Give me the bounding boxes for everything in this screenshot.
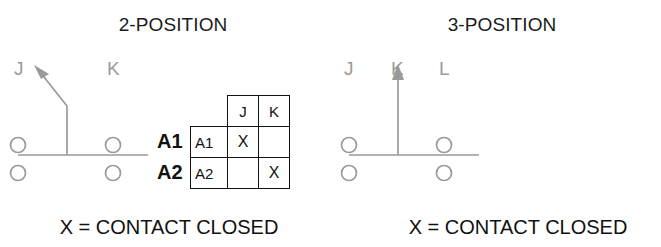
contact-table-2-position: J K A1 X A2 X — [190, 95, 290, 189]
position-label-k: K — [391, 58, 404, 80]
position-label-k: K — [107, 58, 120, 80]
table-row: A2 X — [191, 158, 290, 189]
switch-schematic-svg-2-position — [0, 52, 180, 192]
panel-2-position: 2-POSITION J K A1 A2 J K — [0, 0, 330, 247]
legend-caption-2-position: X = CONTACT CLOSED — [0, 216, 334, 239]
column-header-k: K — [259, 96, 290, 127]
arrow-up-left-icon — [34, 65, 49, 79]
table-row: A1 X — [191, 127, 290, 158]
column-header-j: J — [228, 96, 259, 127]
position-label-l: L — [439, 58, 450, 80]
terminal-bottom-right — [437, 166, 452, 181]
cell-a2-j — [228, 158, 259, 189]
outer-row-label-a2: A2 — [157, 157, 183, 188]
row-label-a2: A2 — [191, 158, 228, 189]
switch-schematic-svg-3-position — [331, 52, 511, 192]
terminal-top-left — [342, 138, 357, 153]
row-label-a1: A1 — [191, 127, 228, 158]
cell-a1-k — [259, 127, 290, 158]
header-spacer-cell — [191, 96, 228, 127]
cell-a1-j: X — [228, 127, 259, 158]
terminal-top-right — [437, 138, 452, 153]
legend-caption-3-position: X = CONTACT CLOSED — [331, 216, 661, 239]
terminal-bottom-left — [11, 166, 26, 181]
terminal-bottom-right — [106, 166, 121, 181]
terminal-top-left — [11, 138, 26, 153]
switch-schematic-3-position: J K L — [331, 52, 511, 192]
panel-3-position: 3-POSITION J K L A1 A2 J K L A1 X — [331, 0, 661, 247]
terminal-top-right — [106, 138, 121, 153]
position-label-j: J — [344, 58, 354, 80]
outer-row-label-a1: A1 — [157, 126, 183, 157]
switch-schematic-2-position: J K — [0, 52, 180, 192]
actuator-arm — [40, 72, 67, 106]
table-header-row: J K — [191, 96, 290, 127]
panel-title-3-position: 3-POSITION — [331, 14, 661, 36]
outer-row-labels-2-position: A1 A2 — [157, 126, 183, 188]
cell-a2-k: X — [259, 158, 290, 189]
terminal-bottom-left — [342, 166, 357, 181]
panel-title-2-position: 2-POSITION — [0, 14, 338, 36]
position-label-j: J — [14, 58, 24, 80]
